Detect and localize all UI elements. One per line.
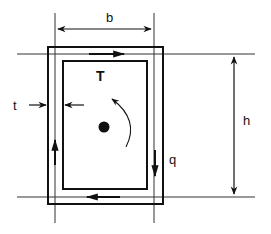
label-h: h (243, 113, 250, 128)
label-q: q (169, 152, 176, 167)
torque-center-dot (99, 122, 110, 133)
torque-rotation-arrow (112, 99, 131, 147)
label-T: T (96, 68, 105, 84)
box-section-torsion-diagram: b h t T q (0, 0, 271, 234)
label-t: t (13, 98, 17, 113)
label-b: b (106, 10, 113, 25)
